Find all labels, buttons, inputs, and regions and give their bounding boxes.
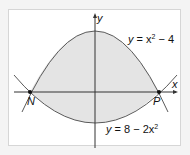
parabola-diagram: x y N P y = x2 − 4 y = 8 − 2x2 — [0, 0, 190, 155]
y-axis-label: y — [96, 12, 104, 24]
curve-upper-label: y = x2 − 4 — [127, 33, 174, 45]
point-n — [28, 90, 32, 94]
point-p-label: P — [153, 95, 161, 107]
x-axis-label: x — [171, 78, 178, 90]
x-axis-arrow-icon — [173, 90, 178, 94]
point-n-label: N — [27, 95, 35, 107]
point-p — [157, 90, 161, 94]
curve-lower-label: y = 8 − 2x2 — [105, 123, 158, 135]
